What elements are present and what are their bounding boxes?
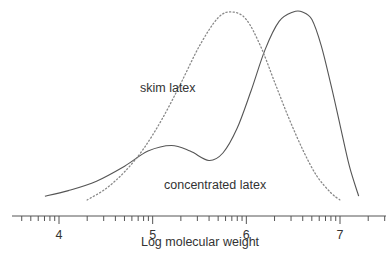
x-axis-label: Log molecular weight [141,235,260,249]
concentrated-latex-curve [45,11,359,196]
skim-latex-curve [87,12,340,200]
plot-area [45,11,359,200]
chart: 4567 Log molecular weight skim latexconc… [0,0,392,263]
x-tick-label: 7 [337,228,344,242]
skim-latex-label: skim latex [140,81,196,95]
annotations: skim latexconcentrated latex [140,81,267,192]
concentrated-latex-label: concentrated latex [164,178,267,192]
x-tick-label: 4 [56,228,63,242]
x-axis [12,216,386,224]
